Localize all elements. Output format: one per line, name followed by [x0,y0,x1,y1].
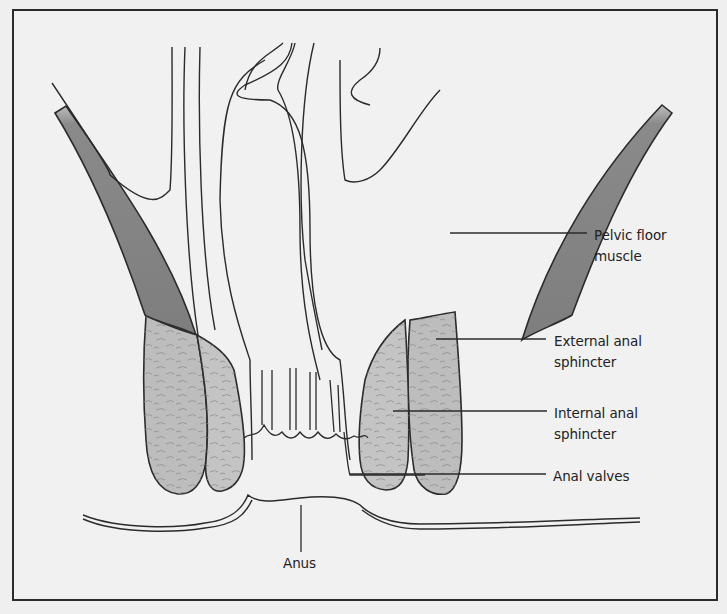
label-internal-anal-sphincter: Internal anal sphincter [554,403,638,445]
label-anal-valves: Anal valves [553,466,629,487]
anal-canal-illustration [0,0,727,614]
label-external-anal-sphincter: External anal sphincter [554,331,642,373]
pelvic-floor-muscle-right [522,105,672,340]
label-anus: Anus [283,553,316,574]
label-pelvic-floor-muscle: Pelvic floor muscle [594,225,667,267]
internal-anal-sphincter-right [359,320,409,490]
pelvic-floor-muscle-left [55,106,196,335]
perineal-skin [83,495,640,531]
